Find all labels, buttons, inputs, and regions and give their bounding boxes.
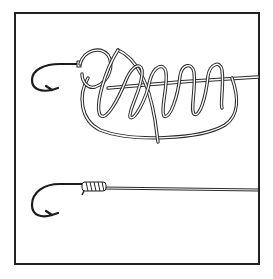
finished-knot (82, 182, 106, 195)
bottom-panel-finished-knot (32, 182, 258, 216)
hook-icon (32, 64, 78, 91)
fishing-line-loops (80, 50, 258, 142)
top-panel-knot-in-progress (32, 50, 258, 142)
knot-illustration (0, 0, 273, 279)
hook-icon (32, 184, 82, 216)
